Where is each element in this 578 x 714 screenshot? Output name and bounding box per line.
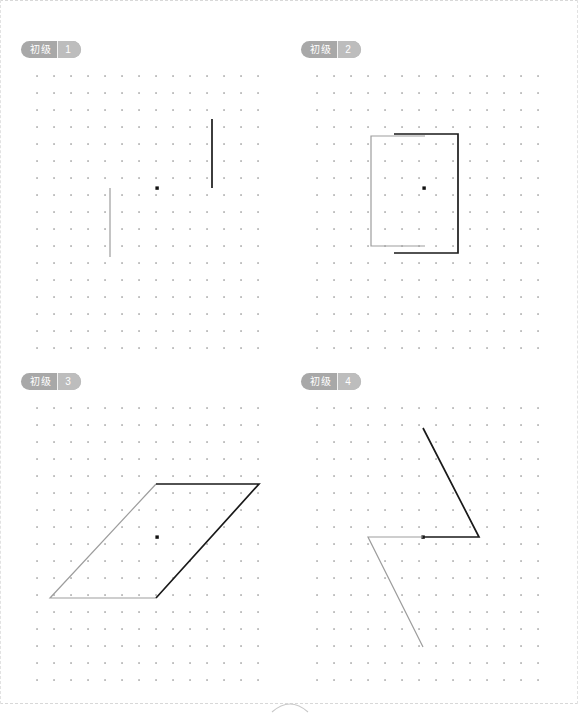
symmetry-center-dot	[155, 186, 158, 189]
grid-dot	[189, 109, 191, 111]
grid-dot	[53, 279, 55, 281]
grid-dot	[155, 75, 157, 77]
grid-dot	[469, 424, 471, 426]
grid-dot	[503, 611, 505, 613]
grid-dot	[172, 628, 174, 630]
grid-dot	[418, 424, 420, 426]
grid-dot	[87, 611, 89, 613]
grid-dot	[189, 177, 191, 179]
grid-dot	[172, 645, 174, 647]
grid-dot	[172, 509, 174, 511]
grid-dot	[350, 543, 352, 545]
grid-dot	[206, 594, 208, 596]
grid-dot	[257, 313, 259, 315]
grid-dot	[316, 662, 318, 664]
grid-dot	[257, 75, 259, 77]
grid-dot	[401, 509, 403, 511]
grid-dot	[486, 577, 488, 579]
grid-dot	[350, 160, 352, 162]
grid-dot	[486, 611, 488, 613]
grid-dot	[520, 160, 522, 162]
grid-dot	[503, 75, 505, 77]
grid-dot	[452, 279, 454, 281]
grid-dot	[53, 92, 55, 94]
grid-dot	[206, 628, 208, 630]
grid-dot	[257, 126, 259, 128]
panel-1-level-label: 初级	[21, 41, 57, 58]
grid-dot	[350, 75, 352, 77]
grid-dot	[367, 509, 369, 511]
grid-dot	[257, 458, 259, 460]
grid-dot	[138, 126, 140, 128]
grid-dot	[537, 126, 539, 128]
grid-dot	[104, 441, 106, 443]
grid-dot	[87, 143, 89, 145]
grid-dot	[87, 679, 89, 681]
grid-dot	[537, 109, 539, 111]
grid-dot	[384, 177, 386, 179]
grid-dot	[418, 407, 420, 409]
grid-dot	[350, 475, 352, 477]
grid-dot	[520, 577, 522, 579]
grid-dot	[486, 594, 488, 596]
grid-dot	[240, 475, 242, 477]
grid-dot	[206, 313, 208, 315]
grid-dot	[537, 75, 539, 77]
grid-dot	[520, 662, 522, 664]
grid-dot	[189, 92, 191, 94]
grid-dot	[469, 296, 471, 298]
grid-dot	[401, 109, 403, 111]
grid-dot	[401, 594, 403, 596]
grid-dot	[257, 611, 259, 613]
grid-dot	[206, 126, 208, 128]
grid-dot	[537, 543, 539, 545]
grid-dot	[452, 509, 454, 511]
grid-dot	[155, 628, 157, 630]
grid-dot	[240, 177, 242, 179]
grid-dot	[316, 560, 318, 562]
grid-dot	[121, 458, 123, 460]
light-triangle	[368, 537, 423, 647]
grid-dot	[537, 645, 539, 647]
panel-2-dot-board	[301, 63, 563, 363]
grid-dot	[350, 424, 352, 426]
grid-dot	[452, 109, 454, 111]
grid-dot	[104, 662, 106, 664]
grid-dot	[384, 347, 386, 349]
grid-dot	[36, 662, 38, 664]
grid-dot	[316, 75, 318, 77]
grid-dot	[70, 543, 72, 545]
grid-dot	[316, 228, 318, 230]
grid-dot	[223, 611, 225, 613]
grid-dot	[367, 577, 369, 579]
grid-dot	[452, 475, 454, 477]
grid-dot	[401, 475, 403, 477]
grid-dot	[401, 211, 403, 213]
grid-dot	[206, 296, 208, 298]
grid-dot	[367, 228, 369, 230]
grid-dot	[206, 211, 208, 213]
grid-dot	[87, 441, 89, 443]
grid-dot	[520, 126, 522, 128]
grid-dot	[469, 407, 471, 409]
grid-dot	[520, 475, 522, 477]
grid-dot	[138, 628, 140, 630]
grid-dot	[469, 662, 471, 664]
grid-dot	[87, 109, 89, 111]
grid-dot	[206, 526, 208, 528]
grid-dot	[36, 475, 38, 477]
grid-dot	[36, 424, 38, 426]
grid-dot	[401, 577, 403, 579]
grid-dot	[520, 407, 522, 409]
grid-dot	[469, 262, 471, 264]
grid-dot	[350, 594, 352, 596]
grid-dot	[121, 279, 123, 281]
grid-dot	[333, 458, 335, 460]
grid-dot	[172, 441, 174, 443]
grid-dot	[316, 313, 318, 315]
grid-dot	[367, 245, 369, 247]
grid-dot	[367, 75, 369, 77]
grid-dot	[384, 679, 386, 681]
grid-dot	[70, 424, 72, 426]
grid-dot	[155, 92, 157, 94]
